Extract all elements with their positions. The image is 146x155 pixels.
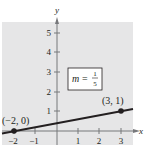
y-axis-label: y <box>54 5 59 15</box>
y-axis-arrow-icon <box>55 17 59 24</box>
svg-text:2: 2 <box>47 87 52 97</box>
slope-chart: y x 1 2 3 4 5 −2 −1 <box>0 0 146 155</box>
svg-text:1: 1 <box>93 70 97 78</box>
svg-text:5: 5 <box>47 28 52 38</box>
point-b-label: (3, 1) <box>102 95 124 107</box>
x-axis-label: x <box>138 126 143 136</box>
svg-text:2: 2 <box>97 136 102 146</box>
svg-text:m: m <box>72 73 79 84</box>
svg-text:1: 1 <box>76 136 81 146</box>
svg-text:1: 1 <box>47 106 52 116</box>
svg-text:=: = <box>82 73 88 84</box>
svg-text:5: 5 <box>93 80 97 88</box>
point-b <box>118 108 124 114</box>
svg-text:−2: −2 <box>8 136 18 146</box>
svg-text:3: 3 <box>119 136 124 146</box>
slope-annotation: m = 1 5 <box>68 68 102 90</box>
svg-text:−1: −1 <box>29 136 39 146</box>
point-a <box>11 128 17 134</box>
point-a-label: (−2, 0) <box>2 115 29 127</box>
svg-text:4: 4 <box>47 47 52 57</box>
svg-text:3: 3 <box>47 67 52 77</box>
plot-background <box>2 22 133 145</box>
